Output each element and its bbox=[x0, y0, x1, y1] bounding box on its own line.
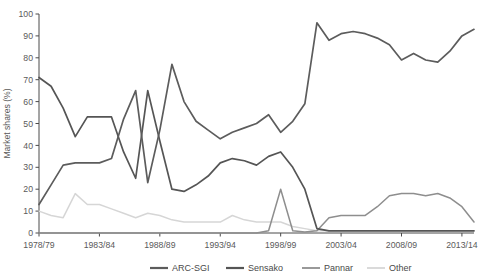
y-axis-title: Market shares (%) bbox=[2, 88, 12, 158]
y-tick-label: 70 bbox=[23, 75, 33, 85]
chart-legend: ARC-SGISensakoPannarOther bbox=[150, 263, 412, 273]
y-tick-label: 60 bbox=[23, 97, 33, 107]
x-tick-label: 1988/89 bbox=[144, 240, 176, 250]
x-tick-label: 2013/14 bbox=[446, 240, 478, 250]
market-share-line-chart: 0102030405060708090100 1978/791983/84198… bbox=[0, 0, 483, 280]
x-axis: 1978/791983/841988/891993/941998/992003/… bbox=[23, 233, 477, 250]
y-tick-label: 90 bbox=[23, 31, 33, 41]
series-line-pannar bbox=[39, 189, 474, 233]
y-tick-label: 20 bbox=[23, 184, 33, 194]
x-tick-label: 1978/79 bbox=[23, 240, 55, 250]
y-axis-title-text: Market shares (%) bbox=[2, 88, 12, 158]
chart-canvas: 0102030405060708090100 1978/791983/84198… bbox=[0, 0, 483, 280]
y-axis: 0102030405060708090100 bbox=[19, 9, 40, 238]
series-line-sensako bbox=[39, 78, 474, 231]
y-tick-label: 40 bbox=[23, 141, 33, 151]
series-line-arc-sgi bbox=[39, 23, 474, 205]
legend-label-other: Other bbox=[389, 263, 412, 273]
x-tick-label: 1998/99 bbox=[265, 240, 297, 250]
y-tick-label: 0 bbox=[28, 228, 33, 238]
legend-label-pannar: Pannar bbox=[324, 263, 353, 273]
x-tick-label: 1993/94 bbox=[205, 240, 237, 250]
x-tick-label: 2008/09 bbox=[386, 240, 418, 250]
series-line-other bbox=[39, 194, 474, 231]
x-tick-label: 1983/84 bbox=[84, 240, 116, 250]
y-tick-label: 80 bbox=[23, 53, 33, 63]
y-tick-label: 10 bbox=[23, 206, 33, 216]
y-tick-label: 50 bbox=[23, 119, 33, 129]
legend-label-arc-sgi: ARC-SGI bbox=[172, 263, 210, 273]
legend-label-sensako: Sensako bbox=[248, 263, 283, 273]
x-tick-label: 2003/04 bbox=[325, 240, 357, 250]
y-tick-label: 100 bbox=[19, 9, 34, 19]
series-lines bbox=[39, 23, 474, 233]
y-tick-label: 30 bbox=[23, 162, 33, 172]
